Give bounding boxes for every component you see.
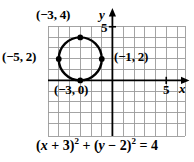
equation-variable-x: x	[41, 138, 48, 153]
x-axis-label: x	[179, 82, 186, 95]
point-marker-right	[99, 56, 105, 62]
point-marker-top	[77, 35, 83, 41]
circle-graph-figure: (−3, 4) (−5, 2) (−1, 2) (−3, 0) y x 5 5 …	[0, 0, 194, 162]
point-label-left: (−5, 2)	[2, 50, 36, 63]
point-label-top: (−3, 4)	[36, 8, 70, 21]
y-axis-tick-label-5: 5	[101, 21, 108, 34]
point-marker-left	[56, 56, 62, 62]
x-axis-tick-label-5: 5	[163, 83, 170, 96]
equation-equals-value: = 4	[136, 138, 158, 153]
point-label-right: (−1, 2)	[114, 50, 148, 63]
equation-plus: + (	[79, 138, 99, 153]
circle-equation: (x + 3)2 + (y − 2)2 = 4	[0, 139, 194, 153]
equation-term1-rest: + 3)	[48, 138, 75, 153]
y-axis-arrow-icon	[109, 8, 116, 17]
point-label-bottom: (−3, 0)	[54, 83, 88, 96]
equation-term2-rest: − 2)	[105, 138, 132, 153]
